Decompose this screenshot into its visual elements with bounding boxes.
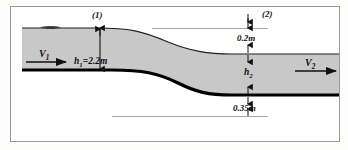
velocity-1-subscript: 1 <box>46 54 50 62</box>
channel-flow-diagram <box>0 0 348 150</box>
depth-1-label: h1=2.2m <box>74 57 107 69</box>
surface-drop-label: 0.2m <box>237 34 255 43</box>
depth-2-subscript: 2 <box>249 72 252 79</box>
velocity-2-subscript: 2 <box>312 63 316 71</box>
velocity-2-label: V2 <box>305 58 315 71</box>
section-1-label: (1) <box>92 11 103 20</box>
figure-container: (1) (2) V1 V2 h1=2.2m h2 0.2m 0.35m <box>0 0 348 150</box>
depth-1-value: =2.2m <box>83 56 108 66</box>
velocity-1-label: V1 <box>39 49 49 62</box>
bed-step-label: 0.35m <box>233 104 256 113</box>
section-2-label: (2) <box>262 10 273 19</box>
depth-2-label: h2 <box>244 68 253 80</box>
